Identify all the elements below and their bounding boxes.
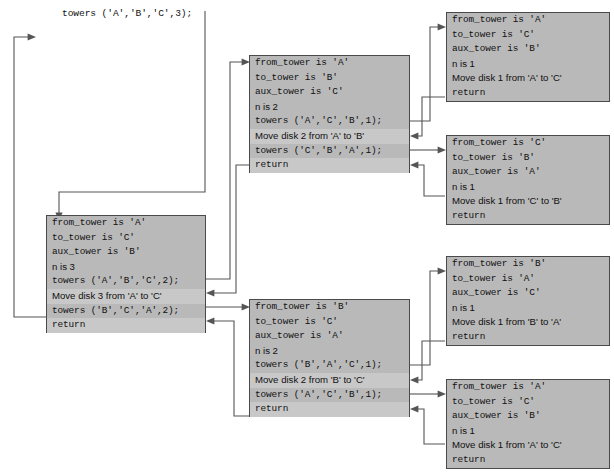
arrowhead-right2-return: [206, 317, 214, 324]
wire-leaf2-return: [417, 165, 445, 196]
frame-row: from_tower is 'A': [447, 13, 609, 28]
wire-call-to-root: [59, 11, 205, 214]
wire-left2-to-leaf1: [410, 27, 439, 121]
frame-row: to_tower is 'A': [447, 272, 609, 287]
frame-row-return: return: [447, 330, 609, 345]
frame-row: aux_tower is 'A': [447, 165, 609, 180]
frame-row-move: Move disk 1 from 'A' to 'C': [447, 71, 609, 86]
frame-row: n is 1: [447, 57, 609, 72]
frame-row-return: return: [47, 318, 205, 333]
frame-row: n is 1: [447, 424, 609, 439]
frame-row-return: return: [447, 453, 609, 468]
wire-leaf1-return: [417, 97, 445, 136]
frame-row: n is 2: [250, 344, 409, 359]
wire-right2-to-leaf3: [410, 271, 439, 365]
frame-row-return: return: [447, 209, 609, 224]
frame-row: n is 2: [250, 100, 409, 115]
frame-row-call: towers ('A','C','B',1);: [250, 388, 409, 403]
top-level-call-label: towers ('A','B','C',3);: [62, 8, 192, 19]
frame-leaf-3: from_tower is 'B' to_tower is 'A' aux_to…: [446, 256, 610, 346]
arrowhead-right2-to-leaf4: [438, 390, 446, 397]
frame-row: to_tower is 'C': [47, 231, 205, 246]
frame-row: from_tower is 'A': [447, 380, 609, 395]
frame-row: n is 1: [447, 180, 609, 195]
frame-row: aux_tower is 'B': [447, 42, 609, 57]
frame-root: from_tower is 'A' to_tower is 'C' aux_to…: [46, 215, 206, 333]
frame-row: aux_tower is 'A': [250, 329, 409, 344]
frame-row-call: towers ('B','C','A',2);: [47, 304, 205, 319]
wire-root-return-out: [14, 37, 46, 317]
wire-leaf4-return: [417, 409, 445, 444]
arrowhead-left2-to-leaf1: [438, 23, 446, 30]
frame-row: to_tower is 'B': [447, 151, 609, 166]
arrowhead-leaf3-return: [410, 376, 418, 383]
frame-row: n is 3: [47, 260, 205, 275]
frame-row: from_tower is 'A': [250, 56, 409, 71]
frame-row-return: return: [250, 158, 409, 173]
arrowhead-left2-return: [206, 289, 214, 296]
frame-row-move: Move disk 2 from 'A' to 'B': [250, 129, 409, 144]
frame-row: to_tower is 'C': [250, 315, 409, 330]
frame-leaf-4: from_tower is 'A' to_tower is 'C' aux_to…: [446, 379, 610, 469]
frame-leaf-2: from_tower is 'C' to_tower is 'B' aux_to…: [446, 135, 610, 225]
frame-row-call: towers ('B','A','C',1);: [250, 358, 409, 373]
recursion-trace-diagram: towers ('A','B','C',3);: [0, 0, 614, 472]
arrowhead-leaf4-return: [410, 405, 418, 412]
frame-row-call: towers ('C','B','A',1);: [250, 144, 409, 159]
frame-row: to_tower is 'B': [250, 71, 409, 86]
arrowhead-root-return-out: [28, 33, 36, 40]
frame-row-call: towers ('A','B','C',2);: [47, 274, 205, 289]
arrowhead-left2-to-leaf2: [438, 146, 446, 153]
frame-leaf-1: from_tower is 'A' to_tower is 'C' aux_to…: [446, 12, 610, 102]
frame-row: from_tower is 'C': [447, 136, 609, 151]
wire-leaf3-return: [417, 341, 445, 380]
frame-row: to_tower is 'C': [447, 395, 609, 410]
frame-row-move: Move disk 2 from 'B' to 'C': [250, 373, 409, 388]
frame-row: aux_tower is 'C': [250, 85, 409, 100]
frame-row-move: Move disk 1 from 'C' to 'B': [447, 194, 609, 209]
frame-row: aux_tower is 'B': [47, 245, 205, 260]
frame-row-call: towers ('A','C','B',1);: [250, 114, 409, 129]
frame-row-return: return: [447, 86, 609, 101]
frame-row-move: Move disk 3 from 'A' to 'C': [47, 289, 205, 304]
frame-row-move: Move disk 1 from 'A' to 'C': [447, 438, 609, 453]
wire-root-to-left2: [206, 62, 243, 279]
frame-row: to_tower is 'C': [447, 28, 609, 43]
frame-row: aux_tower is 'B': [447, 409, 609, 424]
frame-left-2: from_tower is 'A' to_tower is 'B' aux_to…: [249, 55, 410, 173]
frame-row: n is 1: [447, 301, 609, 316]
frame-row: aux_tower is 'C': [447, 286, 609, 301]
frame-row: from_tower is 'B': [447, 257, 609, 272]
arrowhead-leaf2-return: [410, 161, 418, 168]
frame-right-2: from_tower is 'B' to_tower is 'C' aux_to…: [249, 299, 410, 417]
arrowhead-leaf1-return: [410, 132, 418, 139]
frame-row: from_tower is 'B': [250, 300, 409, 315]
arrowhead-right2-to-leaf3: [438, 267, 446, 274]
frame-row: from_tower is 'A': [47, 216, 205, 231]
frame-row-move: Move disk 1 from 'B' to 'A': [447, 315, 609, 330]
wire-left2-return: [213, 165, 249, 293]
wire-right2-return: [213, 321, 249, 416]
frame-row-return: return: [250, 402, 409, 417]
